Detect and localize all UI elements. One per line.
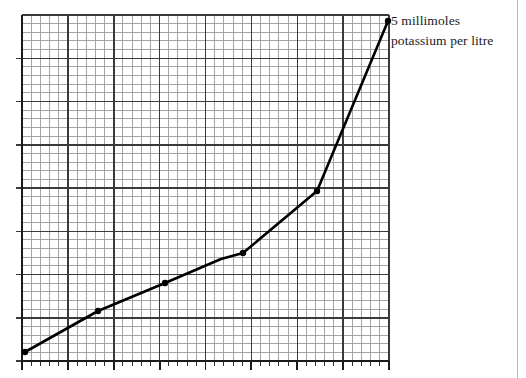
line-chart-graph-paper: [0, 0, 526, 378]
annotation-line-1: 5 millimoles: [391, 11, 523, 31]
figure-page: 5 millimoles potassium per litre: [0, 0, 526, 378]
axis-ticks: [22, 361, 389, 370]
curve-annotation: 5 millimoles potassium per litre: [391, 11, 523, 50]
annotation-line-2: potassium per litre: [391, 31, 523, 51]
